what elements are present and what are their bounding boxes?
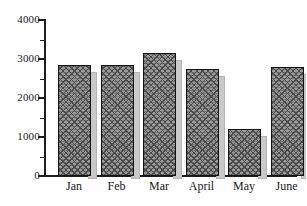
- y-tick-label: 1000: [2, 131, 40, 142]
- bar-group: [58, 65, 100, 176]
- bar-jan[interactable]: [58, 65, 91, 176]
- bar-mar[interactable]: [143, 53, 176, 176]
- bar-group: [101, 65, 143, 176]
- y-tick-label: 3000: [2, 53, 40, 64]
- x-tick-label-june: June: [259, 180, 307, 193]
- bars-layer: [45, 20, 297, 176]
- bar-group: [186, 69, 228, 176]
- y-tick-major: [38, 97, 45, 99]
- bar-group: [271, 67, 307, 176]
- y-tick-major: [38, 58, 45, 60]
- y-tick-major: [38, 136, 45, 138]
- y-axis-tick-labels: 01000200030004000: [0, 0, 40, 206]
- bar-group: [228, 129, 270, 176]
- y-tick-label: 2000: [2, 92, 40, 103]
- y-tick-label: 0: [2, 170, 40, 181]
- bar-group: [143, 53, 185, 176]
- bar-feb[interactable]: [101, 65, 134, 176]
- y-tick-label: 4000: [2, 14, 40, 25]
- y-tick-major: [38, 19, 45, 21]
- bar-april[interactable]: [186, 69, 219, 176]
- bar-may[interactable]: [228, 129, 261, 176]
- bar-chart: 01000200030004000 JanFebMarAprilMayJune: [0, 0, 306, 206]
- y-tick-major: [38, 175, 45, 177]
- bar-june[interactable]: [271, 67, 304, 176]
